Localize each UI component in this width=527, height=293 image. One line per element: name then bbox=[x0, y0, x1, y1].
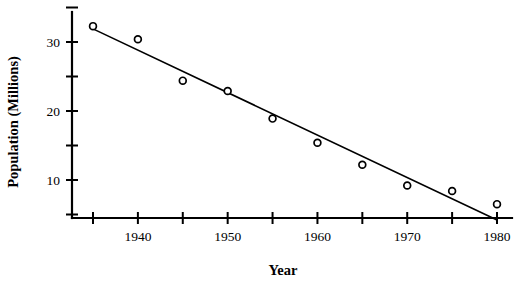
data-point bbox=[404, 182, 411, 189]
chart-axis-titles: YearPopulation (Millions) bbox=[5, 56, 298, 278]
y-axis-title: Population (Millions) bbox=[5, 56, 22, 188]
chart-figure: 10203019401950196019701980 YearPopulatio… bbox=[0, 0, 527, 293]
y-tick-label: 30 bbox=[47, 35, 61, 50]
fit-line-segment bbox=[93, 29, 497, 220]
data-point bbox=[314, 139, 321, 146]
x-tick-label: 1980 bbox=[484, 229, 511, 244]
regression-line bbox=[93, 29, 497, 220]
x-tick-label: 1950 bbox=[214, 229, 241, 244]
data-point bbox=[449, 188, 456, 195]
data-point bbox=[134, 36, 141, 43]
data-point bbox=[494, 201, 501, 208]
x-tick-label: 1960 bbox=[304, 229, 331, 244]
population-scatter-chart: 10203019401950196019701980 YearPopulatio… bbox=[0, 0, 527, 293]
data-point bbox=[269, 115, 276, 122]
data-point bbox=[179, 77, 186, 84]
data-point bbox=[90, 23, 97, 30]
x-axis-title: Year bbox=[269, 262, 299, 278]
x-tick-label: 1940 bbox=[124, 229, 151, 244]
data-point-markers bbox=[90, 23, 501, 208]
data-point bbox=[224, 88, 231, 95]
y-tick-label: 10 bbox=[47, 173, 61, 188]
chart-tick-marks bbox=[66, 8, 497, 225]
data-point bbox=[359, 161, 366, 168]
y-tick-label: 20 bbox=[47, 104, 61, 119]
chart-tick-labels: 10203019401950196019701980 bbox=[47, 35, 511, 244]
x-tick-label: 1970 bbox=[394, 229, 421, 244]
